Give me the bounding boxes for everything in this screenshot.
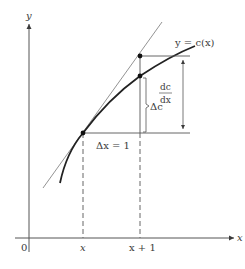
derivative-numerator: dc bbox=[160, 82, 171, 92]
delta-c-brace bbox=[143, 78, 149, 132]
x-axis-label: x bbox=[237, 232, 243, 243]
tick-label-x-plus-1: x + 1 bbox=[129, 242, 156, 253]
diagram-canvas: y x 0 x x + 1 y = c(x) Δx = 1 Δc dc dx bbox=[0, 0, 245, 269]
point-curve-at-x-plus-1 bbox=[138, 74, 143, 79]
point-at-x bbox=[81, 131, 86, 136]
tangent-line bbox=[43, 22, 162, 188]
cost-curve bbox=[60, 46, 195, 183]
delta-x-label: Δx = 1 bbox=[96, 140, 130, 151]
curve-label: y = c(x) bbox=[174, 37, 215, 48]
derivative-denominator: dx bbox=[160, 95, 171, 105]
origin-label: 0 bbox=[21, 242, 27, 253]
point-tangent-at-x-plus-1 bbox=[138, 54, 143, 59]
y-axis-label: y bbox=[25, 10, 32, 21]
tick-label-x: x bbox=[80, 242, 86, 253]
